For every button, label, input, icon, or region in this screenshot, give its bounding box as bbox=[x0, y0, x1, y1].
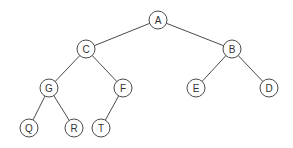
tree-node-a: A bbox=[149, 11, 167, 29]
tree-node-r: R bbox=[65, 119, 83, 137]
node-label: F bbox=[120, 83, 126, 94]
edge-a-c bbox=[86, 20, 158, 49]
node-label: E bbox=[193, 83, 200, 94]
tree-node-t: T bbox=[92, 119, 110, 137]
node-label: C bbox=[82, 44, 89, 55]
tree-edges bbox=[29, 20, 269, 128]
tree-node-q: Q bbox=[20, 119, 38, 137]
node-label: A bbox=[155, 15, 162, 26]
node-label: B bbox=[229, 44, 236, 55]
tree-node-g: G bbox=[40, 79, 58, 97]
node-label: Q bbox=[25, 123, 33, 134]
node-label: R bbox=[70, 123, 77, 134]
binary-tree-diagram: ACBGFEDQRT bbox=[0, 0, 293, 148]
node-label: T bbox=[98, 123, 104, 134]
node-label: G bbox=[45, 83, 53, 94]
node-label: D bbox=[265, 83, 272, 94]
tree-nodes: ACBGFEDQRT bbox=[20, 11, 278, 137]
tree-node-e: E bbox=[187, 79, 205, 97]
tree-node-d: D bbox=[260, 79, 278, 97]
tree-node-f: F bbox=[114, 79, 132, 97]
tree-node-c: C bbox=[77, 40, 95, 58]
edge-a-b bbox=[158, 20, 232, 49]
tree-node-b: B bbox=[223, 40, 241, 58]
